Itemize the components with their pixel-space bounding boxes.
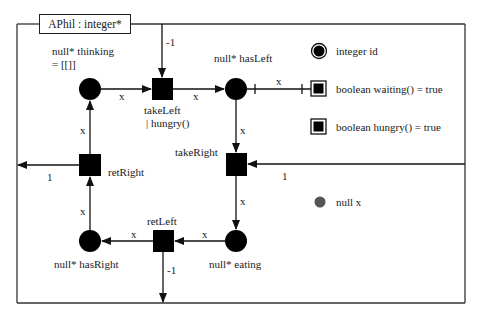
- place-hasRight-label: null* hasRight: [54, 258, 118, 270]
- arc-label-top-takeLeft: -1: [166, 36, 175, 48]
- transition-takeRight-label: takeRight: [175, 146, 218, 158]
- place-hasLeft[interactable]: [225, 78, 247, 100]
- legend-waiting-text: boolean waiting() = true: [336, 83, 443, 95]
- transition-retRight[interactable]: [79, 154, 101, 176]
- arc-label-retRight-left: 1: [47, 171, 53, 183]
- place-hasLeft-label: null* hasLeft: [214, 52, 272, 64]
- arc-label-retRight-thinking: x: [80, 124, 86, 136]
- transition-retRight-label: retRight: [108, 166, 144, 178]
- place-thinking-marking: = [[]]: [52, 58, 76, 70]
- place-eating[interactable]: [225, 230, 247, 252]
- transition-takeLeft[interactable]: [152, 78, 173, 100]
- legend-integer-id-text: integer id: [336, 45, 378, 57]
- arc-label-takeRight-eating: x: [240, 195, 246, 207]
- transition-takeRight[interactable]: [226, 153, 247, 176]
- transition-retLeft-label: retLeft: [147, 215, 177, 227]
- place-thinking-label: null* thinking: [52, 45, 114, 57]
- legend-integer-id-icon: [312, 44, 327, 59]
- transition-retLeft[interactable]: [153, 230, 174, 252]
- arc-label-eating-retLeft: x: [202, 228, 208, 240]
- legend-hungry-text: boolean hungry() = true: [336, 121, 441, 133]
- arc-label-hasLeft-takeRight: x: [240, 124, 246, 136]
- arc-label-hasRight-retRight: x: [80, 205, 86, 217]
- arc-label-thinking-takeLeft: x: [119, 90, 125, 102]
- transition-takeLeft-guard: | hungry(): [146, 117, 189, 129]
- legend-hungry-icon: [311, 119, 326, 134]
- legend-null-token-icon: [315, 197, 326, 208]
- legend-waiting-icon: [311, 81, 326, 96]
- arc-label-right-takeRight: 1: [282, 170, 288, 182]
- transition-takeLeft-label: takeLeft: [144, 104, 181, 116]
- arc-label-hasLeft-waiting: x: [276, 75, 282, 87]
- place-thinking[interactable]: [79, 78, 101, 100]
- arc-label-takeLeft-hasLeft: x: [193, 90, 199, 102]
- arc-label-retLeft-hasRight: x: [131, 228, 137, 240]
- place-eating-label: null* eating: [209, 258, 261, 270]
- place-hasRight[interactable]: [79, 230, 101, 252]
- legend-null-x-text: null x: [336, 196, 361, 208]
- arc-label-retLeft-bottom: -1: [167, 264, 176, 276]
- net-title: APhil : integer*: [39, 14, 131, 34]
